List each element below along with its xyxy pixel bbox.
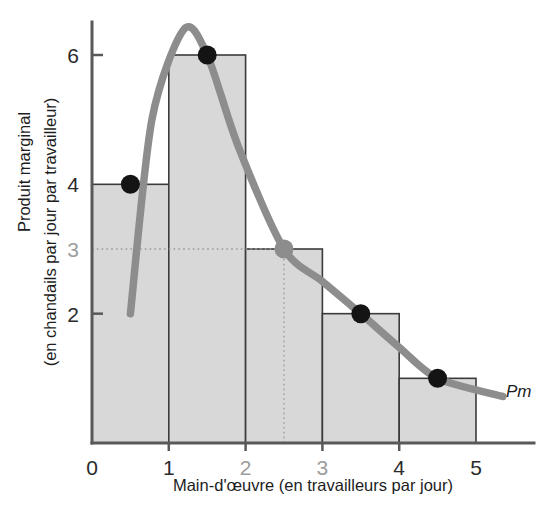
data-point <box>121 175 140 194</box>
data-point <box>198 46 217 65</box>
data-point <box>351 304 370 323</box>
y-tick-label: 3 <box>67 238 79 261</box>
series-label-pm: Pm <box>506 382 532 401</box>
data-point <box>428 369 447 388</box>
y-tick-label: 4 <box>67 173 79 196</box>
data-point <box>275 240 294 259</box>
y-tick-label: 6 <box>67 44 79 67</box>
marginal-product-chart: 2346 012345 Pm Main-d'œuvre (en travaill… <box>0 0 554 514</box>
x-tick-label: 5 <box>470 456 482 479</box>
chart-canvas: 2346 012345 Pm Main-d'œuvre (en travaill… <box>0 0 554 514</box>
x-tick-label: 0 <box>86 456 98 479</box>
x-axis-ticks: 012345 <box>86 443 482 479</box>
y-tick-label: 2 <box>67 303 79 326</box>
x-axis-title: Main-d'œuvre (en travailleurs par jour) <box>173 476 453 494</box>
y-axis-title-line2: (en chandails par jour par travailleur) <box>41 98 59 367</box>
y-axis-title-line1: Produit marginal <box>15 112 33 232</box>
